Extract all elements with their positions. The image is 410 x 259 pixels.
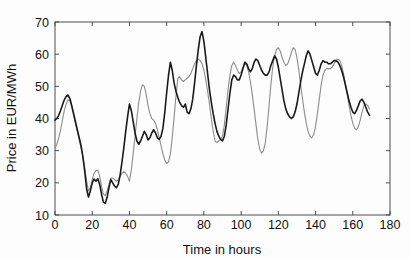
y-tick-label: 60	[35, 48, 49, 62]
y-tick-label: 40	[35, 112, 49, 126]
y-tick-label: 20	[35, 176, 49, 190]
x-axis-title: Time in hours	[183, 242, 262, 257]
y-tick-label: 50	[35, 80, 49, 94]
x-tick-label: 60	[160, 218, 174, 232]
y-tick-label: 70	[35, 16, 49, 30]
x-tick-label: 20	[85, 218, 99, 232]
chart-figure: 020406080100120140160180 10203040506070 …	[0, 0, 410, 259]
x-tick-label: 100	[231, 218, 252, 232]
x-tick-label: 160	[342, 218, 363, 232]
y-axis-title: Price in EUR/MWh	[4, 64, 19, 172]
x-tick-label: 120	[268, 218, 289, 232]
x-tick-label: 80	[197, 218, 211, 232]
y-tick-label: 30	[35, 144, 49, 158]
x-tick-label: 0	[52, 218, 59, 232]
x-tick-label: 40	[122, 218, 136, 232]
x-tick-label: 180	[380, 218, 401, 232]
price-time-line-chart: 020406080100120140160180 10203040506070 …	[0, 0, 410, 259]
y-tick-label: 10	[35, 209, 49, 223]
x-tick-label: 140	[305, 218, 326, 232]
